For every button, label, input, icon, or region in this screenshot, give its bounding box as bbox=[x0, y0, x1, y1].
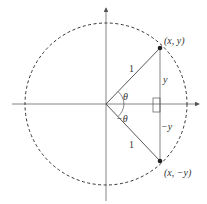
point-bottom bbox=[158, 159, 163, 164]
unit-circle-diagram: (x, y) (x, −y) 1 1 θ −θ y −y bbox=[0, 0, 207, 204]
label-neg-theta: −θ bbox=[116, 113, 128, 124]
label-radius-top: 1 bbox=[129, 63, 134, 74]
label-theta: θ bbox=[123, 91, 128, 102]
label-radius-bottom: 1 bbox=[129, 139, 134, 150]
label-point-top: (x, y) bbox=[164, 35, 185, 47]
radius-bottom bbox=[106, 104, 160, 161]
right-angle-marker bbox=[153, 98, 160, 112]
point-top bbox=[158, 46, 163, 51]
label-y: y bbox=[162, 74, 168, 85]
label-point-bottom: (x, −y) bbox=[164, 167, 192, 179]
radius-top bbox=[106, 48, 160, 104]
label-neg-y: −y bbox=[161, 121, 173, 132]
